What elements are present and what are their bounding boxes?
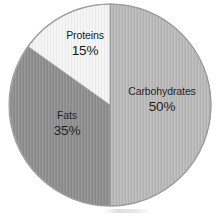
pie-chart: Carbohydrates 50% Fats 35% Proteins 15%	[0, 0, 219, 219]
pie-texture-overlay	[9, 4, 211, 206]
pie-chart-svg	[0, 0, 219, 219]
